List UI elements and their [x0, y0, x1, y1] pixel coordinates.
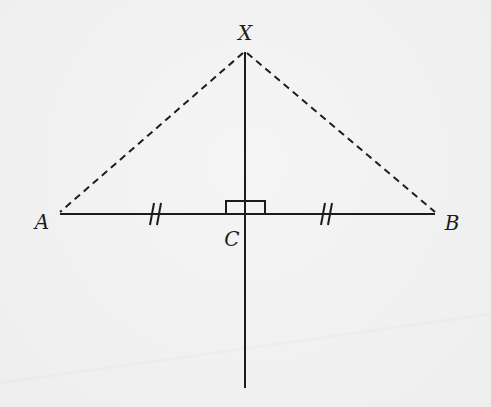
geometry-diagram: [0, 0, 491, 407]
point-label-c: C: [224, 229, 239, 249]
point-label-a: A: [35, 212, 49, 232]
dashed-segment-xb: [247, 53, 435, 212]
point-label-b: B: [445, 213, 460, 233]
point-label-x: X: [238, 23, 252, 43]
dashed-segment-xa: [60, 53, 243, 212]
